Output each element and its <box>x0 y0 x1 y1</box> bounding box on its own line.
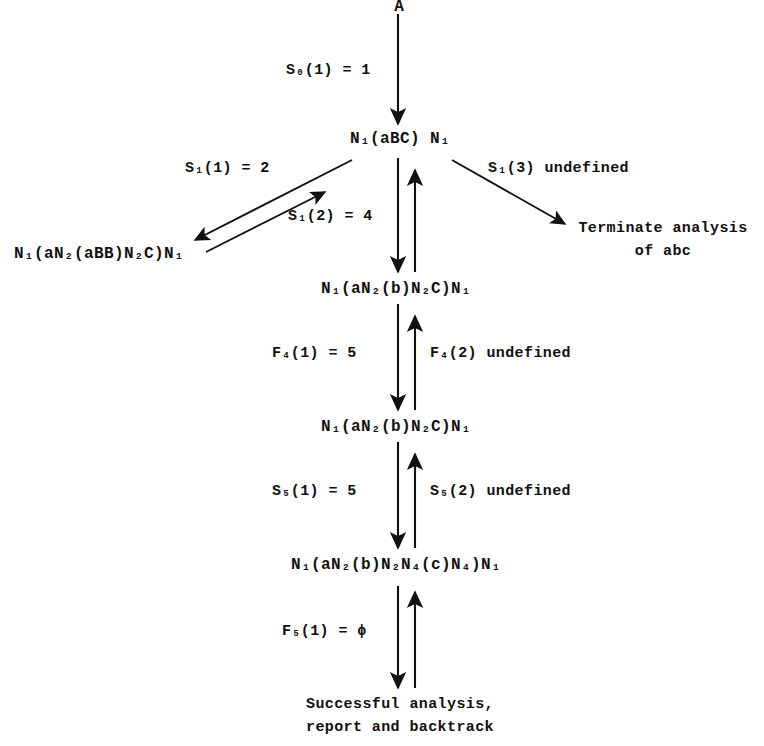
node-b-1: N₁(aN₂(b)N₂C)N₁ <box>321 280 471 298</box>
node-abc: N₁(aBC) N₁ <box>350 130 450 148</box>
node-abb: N₁(aN₂(aBB)N₂C)N₁ <box>14 245 184 263</box>
edge-label-f4-2: F₄(2) undefined <box>430 345 571 362</box>
diagram-canvas: A N₁(aBC) N₁ N₁(aN₂(aBB)N₂C)N₁ N₁(aN₂(b)… <box>0 0 764 746</box>
edge-label-s1-1: S₁(1) = 2 <box>185 160 270 177</box>
edge-label-s5-2: S₅(2) undefined <box>430 483 571 500</box>
edge-label-s1-2: S₁(2) = 4 <box>288 208 373 225</box>
terminal-terminate-line1: Terminate analysis <box>578 218 747 241</box>
node-b-2: N₁(aN₂(b)N₂C)N₁ <box>321 418 471 436</box>
root-label: A <box>394 0 404 16</box>
edge-label-f4-1: F₄(1) = 5 <box>272 345 357 362</box>
node-c: N₁(aN₂(b)N₂N₄(c)N₄)N₁ <box>291 556 501 574</box>
edge-label-s1-3: S₁(3) undefined <box>488 160 629 177</box>
arrow-layer <box>0 0 764 746</box>
terminal-success: Successful analysis, report and backtrac… <box>306 694 494 739</box>
terminal-terminate: Terminate analysis of abc <box>578 218 747 263</box>
edge-label-s5-1: S₅(1) = 5 <box>272 483 357 500</box>
edge-label-s0-1: S₀(1) = 1 <box>286 62 371 79</box>
terminal-success-line1: Successful analysis, <box>306 694 494 717</box>
terminal-success-line2: report and backtrack <box>306 717 494 740</box>
terminal-terminate-line2: of abc <box>578 241 747 264</box>
edge-label-f5-1: F₅(1) = ϕ <box>282 623 367 640</box>
